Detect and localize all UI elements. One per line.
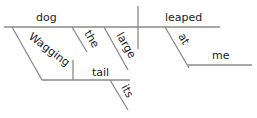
verb-word: leaped: [165, 11, 202, 24]
preposition-word: at: [175, 31, 192, 48]
subject-word: dog: [36, 11, 57, 24]
sentence-diagram: dog leaped Wagging tail its the large at…: [0, 0, 257, 118]
adjective-word: large: [113, 30, 138, 61]
prep-object-word: me: [212, 49, 230, 62]
participle-object-word: tail: [92, 66, 109, 79]
